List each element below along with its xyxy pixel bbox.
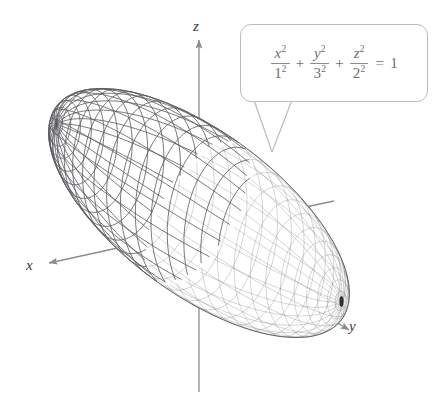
equation-callout: x2 12 + y2 32 + z2 22 = 1 — [240, 24, 428, 102]
term-y-numerator-var: y — [314, 45, 321, 61]
term-y-numerator-exp: 2 — [321, 44, 326, 54]
operator-1: + — [296, 55, 305, 72]
term-z-denominator-exp: 2 — [361, 64, 366, 74]
term-x-denominator-base: 1 — [274, 65, 282, 81]
ellipsoid-mesh — [49, 88, 350, 337]
ellipsoid-pole-marker — [339, 296, 343, 306]
right-hand-side: 1 — [390, 55, 398, 72]
term-y: y2 32 — [310, 45, 329, 82]
term-z-numerator-exp: 2 — [360, 44, 365, 54]
term-y-denominator-exp: 2 — [321, 64, 326, 74]
term-x-denominator-exp: 2 — [282, 64, 287, 74]
equals-sign: = — [375, 55, 384, 72]
term-z: z2 22 — [350, 45, 369, 82]
ellipsoid-equation: x2 12 + y2 32 + z2 22 = 1 — [270, 45, 398, 82]
term-z-denominator-base: 2 — [353, 65, 361, 81]
operator-2: + — [335, 55, 344, 72]
term-x-numerator-exp: 2 — [281, 44, 286, 54]
callout-tail — [254, 100, 292, 152]
term-x: x2 12 — [271, 45, 290, 82]
axis-label-y: y — [349, 318, 356, 335]
axis-label-x: x — [26, 257, 33, 274]
axis-label-z: z — [193, 18, 199, 35]
